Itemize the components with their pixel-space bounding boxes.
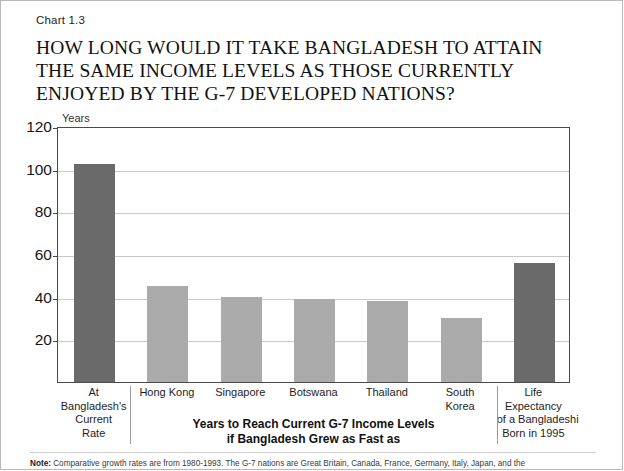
footnote-text: Comparative growth rates are from 1980-1… — [53, 459, 525, 468]
gridline-100 — [58, 171, 569, 172]
y-tickmark-120 — [53, 128, 58, 129]
y-axis-title: Years — [62, 112, 90, 124]
chart-title-line-3: ENJOYED BY THE G-7 DEVELOPED NATIONS? — [36, 82, 596, 105]
bar — [514, 263, 555, 382]
category-label: Singapore — [204, 386, 277, 400]
category-label-line: Thailand — [350, 386, 423, 400]
chart-page: Chart 1.3 HOW LONG WOULD IT TAKE BANGLAD… — [0, 0, 624, 471]
y-tick-label-100: 100 — [16, 162, 52, 178]
y-tick-label-60: 60 — [16, 247, 52, 263]
group-caption-line: if Bangladesh Grew as Fast as — [130, 432, 496, 447]
bar — [441, 318, 482, 382]
bar — [147, 286, 188, 382]
chart-number-label: Chart 1.3 — [36, 14, 85, 26]
category-label: Thailand — [350, 386, 423, 400]
category-label: Hong Kong — [130, 386, 203, 400]
category-label-line: Bangladesh's — [57, 400, 130, 414]
footnote-divider — [30, 452, 596, 453]
bar — [74, 164, 115, 382]
category-label: SouthKorea — [423, 386, 496, 413]
category-label-line: Current — [57, 413, 130, 427]
footnote: Note: Comparative growth rates are from … — [30, 459, 600, 469]
bar — [221, 297, 262, 382]
chart-title-line-1: HOW LONG WOULD IT TAKE BANGLADESH TO ATT… — [36, 36, 596, 59]
y-tickmark-80 — [53, 213, 58, 214]
plot-area — [57, 127, 570, 383]
category-label-line: of a Bangladeshi — [497, 413, 570, 427]
category-label-line: Korea — [423, 400, 496, 414]
y-tickmark-60 — [53, 256, 58, 257]
category-label-line: Botswana — [277, 386, 350, 400]
y-tickmark-40 — [53, 299, 58, 300]
category-label-line: At — [57, 386, 130, 400]
category-label-line: South — [423, 386, 496, 400]
category-label-line: Expectancy — [497, 400, 570, 414]
y-tick-label-20: 20 — [16, 332, 52, 348]
chart-title: HOW LONG WOULD IT TAKE BANGLADESH TO ATT… — [36, 36, 596, 105]
group-separator — [497, 386, 498, 444]
footnote-label: Note: — [30, 459, 51, 468]
chart-title-line-2: THE SAME INCOME LEVELS AS THOSE CURRENTL… — [36, 59, 596, 82]
gridline-80 — [58, 213, 569, 214]
y-tickmark-20 — [53, 341, 58, 342]
group-caption-line: Years to Reach Current G-7 Income Levels — [130, 417, 496, 432]
category-label-line: Hong Kong — [130, 386, 203, 400]
y-tickmark-100 — [53, 171, 58, 172]
y-tick-label-40: 40 — [16, 290, 52, 306]
category-label-line: Life — [497, 386, 570, 400]
bar — [367, 301, 408, 382]
category-label: Botswana — [277, 386, 350, 400]
y-tick-label-80: 80 — [16, 204, 52, 220]
group-caption-middle: Years to Reach Current G-7 Income Levels… — [130, 417, 496, 447]
category-label-line: Born in 1995 — [497, 427, 570, 441]
category-label-line: Singapore — [204, 386, 277, 400]
category-label-line: Rate — [57, 427, 130, 441]
category-label: LifeExpectancyof a BangladeshiBorn in 19… — [497, 386, 570, 440]
bar — [294, 299, 335, 382]
gridline-60 — [58, 256, 569, 257]
category-label: AtBangladesh'sCurrentRate — [57, 386, 130, 440]
y-tick-label-120: 120 — [16, 119, 52, 135]
